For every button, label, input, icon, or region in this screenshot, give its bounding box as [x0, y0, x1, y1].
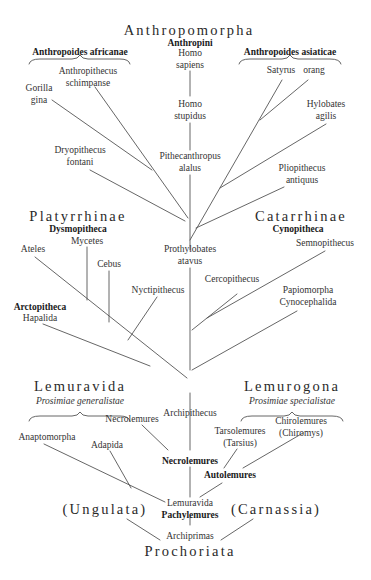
group-title-prochoriata: Prochoriata	[144, 543, 235, 559]
branch-necrolemures-small	[142, 425, 168, 450]
group-label-africanae: Anthropoides africanae	[32, 47, 128, 59]
taxon-satyrus: Satyrus	[267, 65, 296, 77]
taxon-homo-stupidus: Homo stupidus	[174, 99, 206, 122]
group-title-anthropomorpha: Anthropomorpha	[124, 22, 255, 38]
group-title-lemuravida: Lemuravida	[34, 378, 126, 394]
branch-autolemures	[200, 483, 222, 497]
group-title-catarrhinae: Catarrhinae	[255, 208, 347, 224]
taxon-papiomorpha: Papiomorpha Cynocephalida	[280, 285, 337, 308]
taxon-orang: orang	[303, 65, 325, 77]
taxon-archiprimas: Archiprimas	[166, 531, 214, 543]
taxon-prothylobates: Prothylobates atavus	[164, 244, 216, 267]
branch-carnassia	[221, 519, 253, 540]
branch-hapalida	[43, 324, 150, 366]
taxon-chirolemures: Chirolemures (Chiromys)	[275, 416, 327, 439]
taxon-homo-sapiens: Homo sapiens	[176, 48, 204, 71]
taxon-cercopithecus: Cercopithecus	[205, 274, 259, 286]
group-subtitle-specialistae: Prosimiae specialistae	[249, 396, 335, 408]
group-label-asiaticae: Anthropoides asiaticae	[244, 47, 336, 59]
group-label-ungulata: (Ungulata)	[63, 501, 148, 517]
branch-tarsolemures	[224, 449, 237, 468]
taxon-hylobates: Hylobates agilis	[307, 99, 346, 122]
branch-anaptomorpha	[44, 444, 165, 502]
branch-adapida	[110, 451, 131, 488]
taxon-archipithecus: Archipithecus	[163, 408, 216, 420]
taxon-cebus: Cebus	[97, 259, 121, 271]
group-subtitle-generalistae: Prosimiae generalistae	[36, 396, 124, 408]
group-title-lemurogona: Lemurogona	[244, 378, 340, 394]
group-subtitle-cynopitheca: Cynopitheca	[272, 224, 323, 236]
group-label-carnassia: (Carnassia)	[231, 501, 321, 517]
branch-cercopithecus	[192, 294, 237, 330]
branch-orang	[260, 80, 308, 120]
taxon-pliopithecus: Pliopithecus antiquus	[279, 163, 326, 186]
taxon-hapalida: Hapalida	[23, 313, 57, 325]
taxon-autolemures: Autolemures	[204, 470, 256, 482]
branch-papiomorpha	[192, 311, 297, 370]
branch-nyctipithecus	[128, 297, 157, 340]
taxon-ateles: Ateles	[21, 244, 45, 256]
taxon-anthropithecus: Anthropithecus schimpanse	[59, 66, 118, 89]
group-title-platyrrhinae: Platyrrhinae	[29, 208, 126, 224]
taxon-dryopithecus: Dryopithecus fontani	[54, 145, 105, 168]
taxon-mycetes: Mycetes	[71, 236, 103, 248]
taxon-pachylemures: Pachylemures	[162, 510, 219, 522]
taxon-tarsolemures: Tarsolemures (Tarsius)	[214, 426, 265, 449]
group-subtitle-dysmopitheca: Dysmopitheca	[49, 224, 107, 236]
taxon-gorilla: Gorilla gina	[26, 83, 53, 106]
taxon-lemuravida: Lemuravida	[167, 498, 213, 510]
branch-ateles	[35, 257, 187, 378]
taxon-semnopithecus: Semnopithecus	[296, 238, 354, 250]
taxon-pithecanthropus: Pithecanthropus alalus	[159, 151, 220, 174]
taxon-arctopitheca: Arctopitheca	[14, 302, 67, 314]
taxon-necrolemures-small: Necrolemures	[105, 414, 158, 426]
taxon-necrolemures-bold: Necrolemures	[162, 456, 218, 468]
taxon-adapida: Adapida	[91, 440, 123, 452]
taxon-anaptomorpha: Anaptomorpha	[19, 432, 76, 444]
branch-ungulata	[127, 519, 160, 540]
taxon-nyctipithecus: Nyctipithecus	[132, 285, 185, 297]
